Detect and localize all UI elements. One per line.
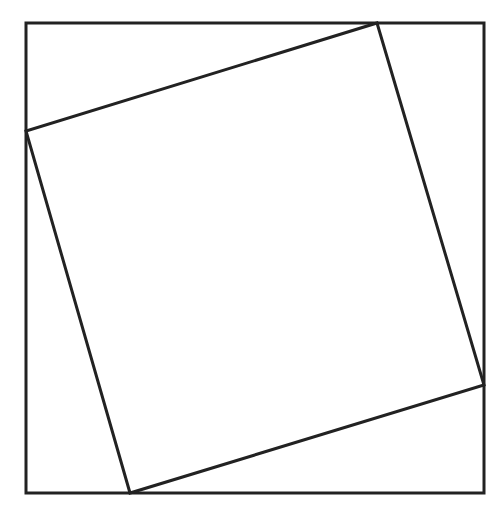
outer-square xyxy=(26,23,484,493)
pythagorean-squares-diagram xyxy=(0,0,504,513)
inner-tilted-square xyxy=(26,23,484,493)
